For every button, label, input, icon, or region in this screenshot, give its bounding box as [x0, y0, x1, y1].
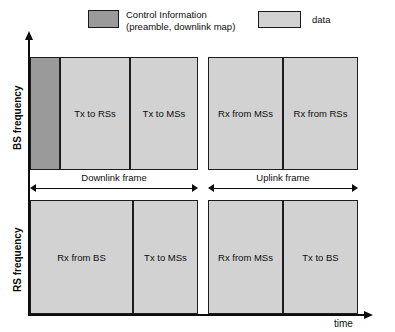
block-bs-tx-to-rss: Tx to RSs	[60, 57, 130, 170]
y-axis-title-rs-frequency: RS frequency	[12, 228, 23, 292]
arrow-right-cap-icon	[352, 184, 358, 192]
block-label: Tx to BS	[302, 252, 338, 263]
frame-structure-diagram: Control Information(preamble, downlink m…	[0, 0, 395, 332]
span-label-uplink-frame: Uplink frame	[256, 172, 309, 183]
arrow-bar	[35, 188, 193, 189]
block-label: Rx from BS	[57, 252, 106, 263]
block-bs-control-information	[30, 57, 60, 170]
block-bs-rx-from-mss: Rx from MSs	[208, 57, 283, 170]
span-label-downlink-frame: Downlink frame	[81, 172, 146, 183]
block-label: Rx from MSs	[218, 252, 273, 263]
span-arrow-downlink-frame: Downlink frame	[30, 183, 198, 194]
block-label: Tx to MSs	[143, 108, 186, 119]
x-axis-line	[28, 314, 367, 316]
block-label: Tx to RSs	[74, 108, 116, 119]
block-rs-tx-to-mss: Tx to MSs	[133, 200, 198, 314]
block-label: Rx from MSs	[218, 108, 273, 119]
block-bs-tx-to-mss: Tx to MSs	[130, 57, 198, 170]
arrow-right-cap-icon	[192, 184, 198, 192]
block-label: Rx from RSs	[294, 108, 348, 119]
y-axis-arrow-icon	[25, 31, 33, 40]
legend-control-line1: Control Information	[126, 9, 207, 20]
block-rs-tx-to-bs: Tx to BS	[283, 200, 358, 314]
legend-swatch-control-information	[88, 10, 119, 28]
block-label: Tx to MSs	[144, 252, 187, 263]
block-rs-rx-from-mss: Rx from MSs	[208, 200, 283, 314]
legend-swatch-data	[258, 11, 301, 28]
y-axis-title-bs-frequency: BS frequency	[12, 86, 23, 150]
arrow-bar	[213, 188, 353, 189]
block-bs-rx-from-rss: Rx from RSs	[283, 57, 358, 170]
x-axis-title-time: time	[334, 318, 353, 329]
legend-label-control-information: Control Information(preamble, downlink m…	[126, 9, 235, 32]
legend-control-line2: (preamble, downlink map)	[126, 21, 235, 32]
block-rs-rx-from-bs: Rx from BS	[30, 200, 133, 314]
legend-label-data: data	[312, 14, 331, 26]
x-axis-arrow-icon	[364, 311, 373, 319]
span-arrow-uplink-frame: Uplink frame	[208, 183, 358, 194]
